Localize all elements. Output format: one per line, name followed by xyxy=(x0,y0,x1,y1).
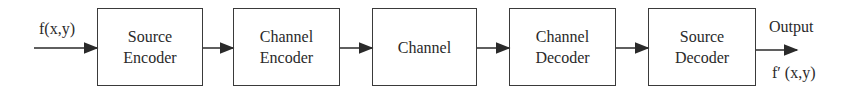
output-signal-label: f′ (x,y) xyxy=(772,64,815,82)
block-label-line1: Source xyxy=(680,26,724,47)
source-encoder-block: Source Encoder xyxy=(97,8,203,86)
block-label-line1: Source xyxy=(128,26,172,47)
block-label-line1: Channel xyxy=(536,26,589,47)
block-label-line2: Encoder xyxy=(123,47,176,68)
block-label-line2: Encoder xyxy=(260,47,313,68)
input-label: f(x,y) xyxy=(39,20,75,38)
channel-decoder-block: Channel Decoder xyxy=(509,8,616,86)
output-label: Output xyxy=(769,18,813,36)
block-label-line2: Decoder xyxy=(675,47,729,68)
block-label-line1: Channel xyxy=(398,37,451,58)
source-decoder-block: Source Decoder xyxy=(648,8,756,86)
channel-block: Channel xyxy=(372,8,477,86)
block-label-line1: Channel xyxy=(260,26,313,47)
channel-encoder-block: Channel Encoder xyxy=(233,8,340,86)
block-label-line2: Decoder xyxy=(535,47,589,68)
